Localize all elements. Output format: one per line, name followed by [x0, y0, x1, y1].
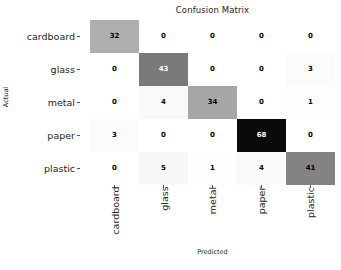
matrix-cell: 1: [286, 86, 335, 119]
matrix-cell: 1: [188, 152, 237, 185]
y-axis-tick-label: metal: [48, 97, 75, 108]
matrix-cell-value: 32: [110, 33, 120, 40]
matrix-cell-value: 68: [257, 132, 267, 139]
y-axis-tick-cardboard: cardboard: [0, 20, 82, 53]
matrix-cell-value: 3: [308, 66, 313, 73]
matrix-cell: 68: [237, 119, 286, 152]
x-axis-tick-labels: cardboardglassmetalpaperplastic: [90, 185, 335, 247]
matrix-cell-value: 0: [210, 33, 215, 40]
y-axis-tick-glass: glass: [0, 53, 82, 86]
matrix-cell: 32: [90, 20, 139, 53]
matrix-cell: 0: [188, 53, 237, 86]
matrix-cell: 3: [90, 119, 139, 152]
x-axis-tick-label: plastic: [305, 186, 316, 217]
matrix-cell: 0: [139, 119, 188, 152]
y-axis-tick-mark: [77, 168, 80, 169]
matrix-cell-value: 0: [308, 132, 313, 139]
y-axis-tick-paper: paper: [0, 119, 82, 152]
matrix-cell-value: 0: [112, 165, 117, 172]
matrix-cell: 4: [139, 86, 188, 119]
matrix-cell: 43: [139, 53, 188, 86]
matrix-cell: 0: [237, 20, 286, 53]
y-axis-tick-label: plastic: [44, 163, 75, 174]
matrix-cell-value: 4: [161, 99, 166, 106]
x-axis-tick-paper: paper: [237, 185, 286, 247]
confusion-matrix-figure: Confusion Matrix Actual cardboardglassme…: [0, 0, 341, 270]
matrix-grid: 320000043003043401300680051441: [90, 20, 335, 185]
matrix-cell-value: 0: [210, 132, 215, 139]
chart-title: Confusion Matrix: [90, 5, 335, 15]
matrix-cell-value: 0: [161, 132, 166, 139]
matrix-cell: 0: [90, 86, 139, 119]
matrix-cell-value: 0: [259, 33, 264, 40]
matrix-cell: 0: [139, 20, 188, 53]
y-axis-tick-labels: cardboardglassmetalpaperplastic: [0, 20, 82, 185]
matrix-cell-value: 0: [259, 99, 264, 106]
x-axis-title: Predicted: [90, 248, 335, 256]
matrix-cell: 0: [286, 119, 335, 152]
matrix-cell: 5: [139, 152, 188, 185]
y-axis-tick-mark: [77, 135, 80, 136]
y-axis-tick-mark: [77, 36, 80, 37]
matrix-cell-value: 1: [210, 165, 215, 172]
matrix-cell: 0: [237, 53, 286, 86]
y-axis-tick-label: cardboard: [27, 31, 75, 42]
matrix-cell: 41: [286, 152, 335, 185]
y-axis-tick-mark: [77, 102, 80, 103]
matrix-cell-value: 0: [112, 99, 117, 106]
matrix-cell: 4: [237, 152, 286, 185]
x-axis-tick-label: cardboard: [109, 186, 120, 234]
y-axis-tick-metal: metal: [0, 86, 82, 119]
y-axis-tick-label: paper: [47, 130, 75, 141]
matrix-cell: 0: [188, 20, 237, 53]
y-axis-tick-mark: [77, 69, 80, 70]
matrix-cell: 0: [237, 86, 286, 119]
matrix-cell-value: 41: [306, 165, 316, 172]
matrix-cell-value: 0: [210, 66, 215, 73]
plot-area: 320000043003043401300680051441: [90, 20, 335, 185]
matrix-cell-value: 1: [308, 99, 313, 106]
y-axis-tick-plastic: plastic: [0, 152, 82, 185]
matrix-cell-value: 43: [159, 66, 169, 73]
x-axis-tick-metal: metal: [188, 185, 237, 247]
matrix-cell: 0: [286, 20, 335, 53]
x-axis-tick-label: metal: [207, 186, 218, 213]
matrix-cell: 3: [286, 53, 335, 86]
matrix-cell-value: 0: [112, 66, 117, 73]
x-axis-tick-cardboard: cardboard: [90, 185, 139, 247]
matrix-cell-value: 5: [161, 165, 166, 172]
matrix-cell-value: 0: [308, 33, 313, 40]
matrix-cell-value: 4: [259, 165, 264, 172]
matrix-cell: 34: [188, 86, 237, 119]
x-axis-tick-glass: glass: [139, 185, 188, 247]
matrix-cell-value: 0: [161, 33, 166, 40]
matrix-cell: 0: [90, 53, 139, 86]
matrix-cell-value: 0: [259, 66, 264, 73]
matrix-cell: 0: [90, 152, 139, 185]
matrix-cell-value: 3: [112, 132, 117, 139]
x-axis-tick-label: paper: [256, 187, 267, 215]
x-axis-tick-label: glass: [158, 186, 169, 210]
x-axis-tick-plastic: plastic: [286, 185, 335, 247]
matrix-cell: 0: [188, 119, 237, 152]
matrix-cell-value: 34: [208, 99, 218, 106]
y-axis-tick-label: glass: [51, 64, 75, 75]
